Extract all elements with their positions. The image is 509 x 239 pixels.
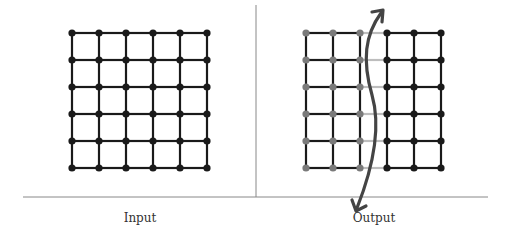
grid-node (95, 29, 102, 36)
grid-node (410, 137, 417, 144)
grid-node (176, 110, 183, 117)
grid-node (383, 83, 390, 90)
input-grid (68, 29, 210, 171)
grid-node (149, 56, 156, 63)
grid-node (95, 56, 102, 63)
grid-node (122, 164, 129, 171)
grid-node (68, 137, 75, 144)
grid-node (410, 56, 417, 63)
grid-node (383, 137, 390, 144)
grid-node (122, 83, 129, 90)
grid-node (176, 137, 183, 144)
grid-node (383, 164, 390, 171)
grid-node (410, 83, 417, 90)
grid-node-partition-a (356, 56, 363, 63)
grid-node (95, 164, 102, 171)
grid-node (149, 83, 156, 90)
grid-node (149, 110, 156, 117)
grid-node (203, 164, 210, 171)
grid-node (68, 29, 75, 36)
grid-node (203, 137, 210, 144)
grid-node-partition-a (302, 137, 309, 144)
grid-node (95, 137, 102, 144)
grid-node (176, 164, 183, 171)
grid-node (122, 29, 129, 36)
grid-node (68, 83, 75, 90)
grid-node-partition-a (302, 110, 309, 117)
grid-node-partition-a (356, 164, 363, 171)
grid-node (203, 83, 210, 90)
grid-node (68, 164, 75, 171)
grid-node-partition-a (302, 29, 309, 36)
grid-node-partition-a (329, 29, 336, 36)
grid-node (383, 56, 390, 63)
grid-node-partition-a (302, 164, 309, 171)
input-label: Input (124, 211, 157, 225)
grid-node (437, 56, 444, 63)
grid-node-partition-a (356, 110, 363, 117)
grid-node-partition-a (329, 56, 336, 63)
grid-node-partition-a (329, 164, 336, 171)
grid-node (437, 110, 444, 117)
grid-node-partition-a (356, 137, 363, 144)
grid-node (203, 29, 210, 36)
grid-node (203, 110, 210, 117)
grid-node-partition-a (329, 83, 336, 90)
grid-node (410, 29, 417, 36)
grid-node-partition-a (329, 110, 336, 117)
grid-node (95, 110, 102, 117)
grid-node (176, 29, 183, 36)
grid-node (68, 110, 75, 117)
diagram-canvas (0, 0, 509, 239)
grid-node (149, 29, 156, 36)
grid-node (95, 83, 102, 90)
grid-node-partition-a (302, 83, 309, 90)
grid-node (410, 110, 417, 117)
grid-node (437, 83, 444, 90)
grid-node (383, 110, 390, 117)
grid-node (149, 164, 156, 171)
grid-node (437, 137, 444, 144)
grid-node (122, 137, 129, 144)
partition-arrow-icon (352, 10, 383, 211)
grid-node (410, 164, 417, 171)
grid-node (176, 56, 183, 63)
grid-node-partition-a (356, 83, 363, 90)
grid-node (437, 164, 444, 171)
output-label: Output (353, 211, 396, 225)
grid-node-partition-a (302, 56, 309, 63)
grid-node (68, 56, 75, 63)
grid-node-partition-a (329, 137, 336, 144)
grid-node (383, 29, 390, 36)
grid-node (149, 137, 156, 144)
grid-node (203, 56, 210, 63)
grid-node (122, 56, 129, 63)
grid-node-partition-a (356, 29, 363, 36)
grid-node (176, 83, 183, 90)
grid-node (437, 29, 444, 36)
grid-node (122, 110, 129, 117)
